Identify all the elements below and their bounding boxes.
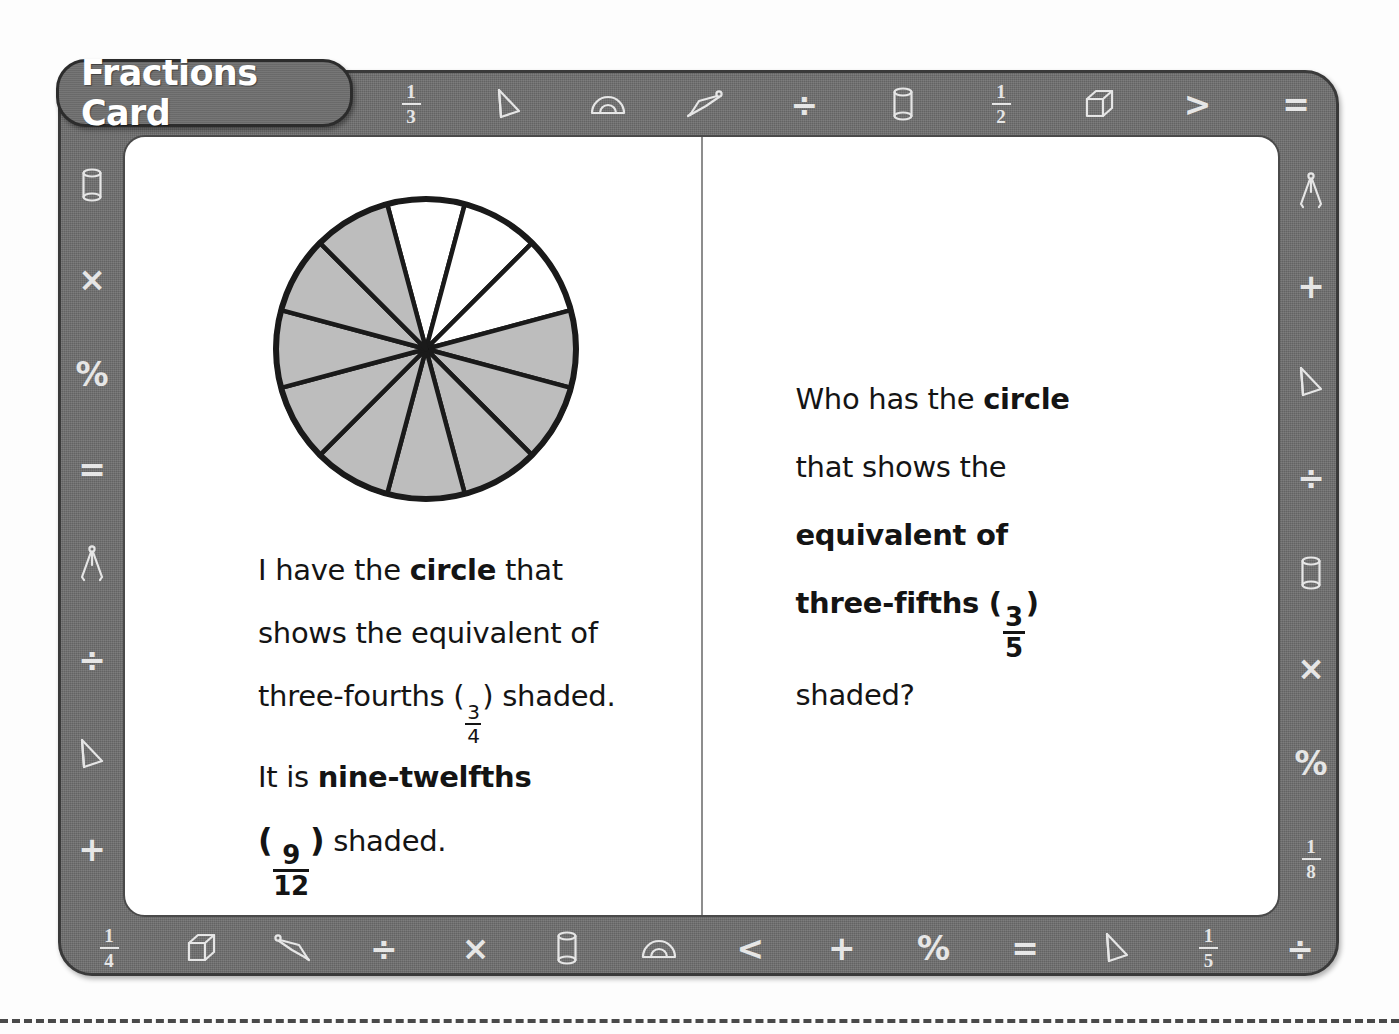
fraction-one-fourth: 14 [86,925,132,971]
cylinder-icon [544,925,590,971]
question-line4-bold: three-fifths ( [796,586,1002,620]
cylinder-icon [1288,550,1334,596]
protractor-icon [585,81,631,127]
fraction-one-third: 13 [388,81,434,127]
answer-line4-part1: It is [258,760,318,794]
card-inner-page: I have the circle that shows the equival… [123,135,1280,917]
question-line-2: that shows the [796,433,1226,501]
equals-sign: = [1002,925,1048,971]
division-sign: ÷ [781,81,827,127]
answer-line3-part2: ) shaded. [482,679,615,713]
question-panel: Who has the circle that shows the equiva… [702,137,1279,915]
cylinder-icon [880,81,926,127]
cut-line-dashed [0,1019,1399,1023]
equals-sign: = [1273,81,1319,127]
fraction-three-fourths: 34 [465,702,481,746]
question-line-5: shaded? [796,661,1226,729]
set-square-icon [69,731,115,777]
fraction-one-eighth: 18 [1288,836,1334,882]
fraction-one-half: 12 [978,81,1024,127]
answer-line1-bold: circle [410,553,496,587]
question-line1-bold: circle [983,382,1069,416]
division-sign: ÷ [69,636,115,682]
paren-close: ) [1026,586,1039,620]
set-square-icon [1288,359,1334,405]
fraction-circle-diagram [270,193,582,505]
fraction-one-fifth: 15 [1185,925,1231,971]
question-line1-part1: Who has the [796,382,984,416]
cube-icon [178,925,224,971]
answer-line1-part2: that [496,553,563,587]
answer-panel: I have the circle that shows the equival… [125,137,702,915]
multiplication-sign: × [1288,645,1334,691]
fraction-denominator: 5 [1005,635,1023,661]
answer-line-5: (912) shaded. [258,809,728,899]
fraction-numerator: 9 [282,842,300,868]
percent-sign: % [1288,741,1334,787]
fraction-three-fifths: 35 [1003,604,1025,661]
worksheet-page: 13÷12>= ×%=÷+ +÷×%18 14÷×<+%=15÷ Fractio… [0,0,1399,1034]
set-square-icon [486,81,532,127]
fraction-denominator: 12 [273,873,309,899]
fraction-numerator: 3 [1005,604,1023,630]
protractor-icon [636,925,682,971]
compass-icon [269,925,315,971]
greater-than-sign: > [1175,81,1221,127]
set-square-icon [1094,925,1140,971]
question-statement: Who has the circle that shows the equiva… [796,365,1226,729]
equals-sign: = [69,447,115,493]
compass-icon [69,541,115,587]
answer-line-3: three-fourths (34) shaded. [258,665,728,746]
fraction-denominator: 4 [467,726,479,746]
percent-sign: % [911,925,957,971]
fraction-numerator: 3 [467,702,479,722]
multiplication-sign: × [69,257,115,303]
fraction-nine-twelfths: 912 [273,842,309,899]
answer-line4-bold: nine-twelfths [318,760,532,794]
answer-line5-tail: shaded. [324,824,446,858]
division-sign: ÷ [361,925,407,971]
cylinder-icon [69,162,115,208]
paren-close: ) [310,821,324,859]
question-line-4: three-fifths (35) [796,569,1226,661]
answer-line3-part1: three-fourths ( [258,679,464,713]
paren-open: ( [258,821,272,859]
division-sign: ÷ [1288,454,1334,500]
question-line-3: equivalent of [796,501,1226,569]
plus-sign: + [69,826,115,872]
less-than-sign: < [727,925,773,971]
page-title: Fractions Card [81,53,350,133]
plus-sign: + [819,925,865,971]
card-title-tab: Fractions Card [56,59,353,127]
division-sign: ÷ [1277,925,1323,971]
answer-line-2: shows the equivalent of [258,602,728,665]
cube-icon [1076,81,1122,127]
answer-line1-part1: I have the [258,553,410,587]
percent-sign: % [69,352,115,398]
compass-icon [683,81,729,127]
multiplication-sign: × [452,925,498,971]
answer-statement: I have the circle that shows the equival… [258,539,728,899]
fractions-card: 13÷12>= ×%=÷+ +÷×%18 14÷×<+%=15÷ Fractio… [58,70,1339,976]
question-line-1: Who has the circle [796,365,1226,433]
compass-icon [1288,168,1334,214]
answer-line-4: It is nine-twelfths [258,746,728,809]
plus-sign: + [1288,263,1334,309]
answer-line-1: I have the circle that [258,539,728,602]
pie-chart-svg [270,193,582,505]
